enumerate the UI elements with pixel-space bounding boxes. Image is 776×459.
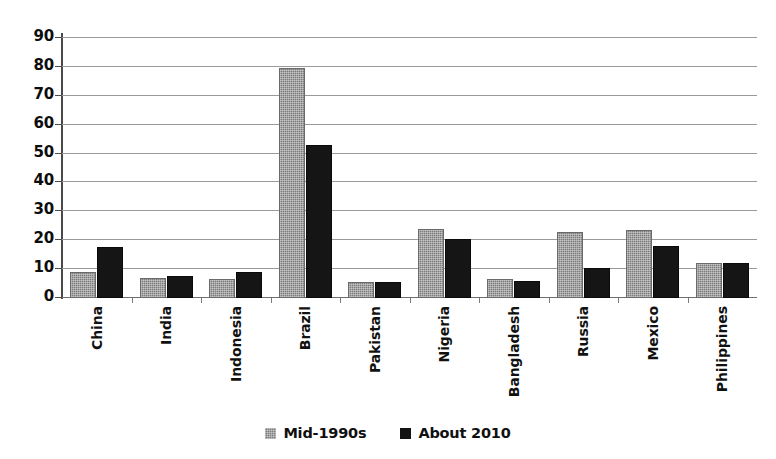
bar-pakistan-about-2010 — [375, 282, 401, 298]
x-axis-tick-mark — [479, 298, 480, 303]
bar-brazil-about-2010 — [306, 145, 332, 298]
y-axis-tick-mark — [55, 181, 62, 182]
bar-china-mid-1990s — [70, 272, 96, 298]
bar-bangladesh-about-2010 — [514, 281, 540, 298]
y-axis-tick-label: 70 — [18, 87, 54, 102]
bar-bangladesh-mid-1990s — [487, 279, 513, 298]
bars-layer — [62, 37, 757, 298]
x-axis-label-slot: Philippines — [688, 302, 758, 410]
x-axis-tick-mark — [271, 298, 272, 303]
y-axis-tick-label: 30 — [18, 202, 54, 217]
y-axis-tick-label: 0 — [18, 289, 54, 304]
y-axis-tick-mark — [55, 124, 62, 125]
x-axis-tick-label: Indonesia — [228, 306, 244, 382]
bar-philippines-mid-1990s — [696, 263, 722, 298]
x-axis-tick-mark — [201, 298, 202, 303]
bar-group — [410, 37, 480, 298]
y-axis-tick-mark — [55, 268, 62, 269]
x-axis-tick-mark — [618, 298, 619, 303]
bar-group — [340, 37, 410, 298]
x-axis-tick-label: Nigeria — [436, 306, 452, 362]
bar-pakistan-mid-1990s — [348, 282, 374, 298]
x-axis-tick-mark — [132, 298, 133, 303]
y-axis-tick-mark — [55, 297, 62, 298]
bar-india-about-2010 — [167, 276, 193, 298]
x-axis-tick-label: India — [158, 306, 174, 345]
bar-brazil-mid-1990s — [279, 68, 305, 298]
legend-label: Mid-1990s — [283, 425, 366, 441]
bar-mexico-about-2010 — [653, 246, 679, 298]
x-axis-label-slot: China — [62, 302, 132, 410]
y-axis-tick-mark — [55, 37, 62, 38]
bar-group — [688, 37, 758, 298]
x-axis-label-slot: Brazil — [271, 302, 341, 410]
bar-nigeria-about-2010 — [445, 239, 471, 298]
bar-group — [549, 37, 619, 298]
y-axis-tick-label: 10 — [18, 260, 54, 275]
x-axis-tick-labels: ChinaIndiaIndonesiaBrazilPakistanNigeria… — [62, 302, 757, 410]
bar-india-mid-1990s — [140, 278, 166, 298]
bar-group — [271, 37, 341, 298]
chart-legend: Mid-1990sAbout 2010 — [0, 425, 776, 441]
x-axis-tick-label: Philippines — [714, 306, 730, 392]
bar-group — [62, 37, 132, 298]
y-axis-tick-label: 20 — [18, 231, 54, 246]
bar-philippines-about-2010 — [723, 263, 749, 298]
x-axis-label-slot: India — [132, 302, 202, 410]
x-axis-tick-label: Pakistan — [367, 306, 383, 373]
legend-item[interactable]: About 2010 — [400, 425, 510, 441]
x-axis-label-slot: Mexico — [618, 302, 688, 410]
y-axis-tick-label: 90 — [18, 29, 54, 44]
bar-mexico-mid-1990s — [626, 230, 652, 298]
x-axis-label-slot: Pakistan — [340, 302, 410, 410]
x-axis-tick-mark — [549, 298, 550, 303]
x-axis-tick-label: Mexico — [645, 306, 661, 361]
x-axis-tick-mark — [688, 298, 689, 303]
legend-item[interactable]: Mid-1990s — [265, 425, 366, 441]
x-axis-tick-mark — [410, 298, 411, 303]
x-axis-label-slot: Russia — [549, 302, 619, 410]
bar-group — [479, 37, 549, 298]
x-axis-tick-label: Bangladesh — [506, 306, 522, 397]
bar-russia-mid-1990s — [557, 232, 583, 298]
bar-group — [132, 37, 202, 298]
bar-indonesia-about-2010 — [236, 272, 262, 298]
y-axis-tick-label: 40 — [18, 173, 54, 188]
y-axis-tick-mark — [55, 239, 62, 240]
y-axis-tick-labels: 9080706050403020100 — [14, 0, 54, 459]
y-axis-tick-label: 80 — [18, 58, 54, 73]
y-axis-tick-label: 60 — [18, 116, 54, 131]
y-axis-tick-mark — [55, 210, 62, 211]
y-axis-tick-label: 50 — [18, 145, 54, 160]
x-axis-tick-mark — [340, 298, 341, 303]
bar-china-about-2010 — [97, 247, 123, 298]
bar-russia-about-2010 — [584, 268, 610, 298]
y-axis-tick-mark — [55, 153, 62, 154]
bar-group — [201, 37, 271, 298]
x-axis-tick-label: Brazil — [297, 306, 313, 350]
y-axis-tick-mark — [55, 95, 62, 96]
bar-indonesia-mid-1990s — [209, 279, 235, 298]
y-axis-tick-mark — [55, 66, 62, 67]
x-axis-tick-label: China — [89, 306, 105, 350]
x-axis-label-slot: Nigeria — [410, 302, 480, 410]
legend-swatch-icon — [400, 428, 411, 439]
bar-chart: 9080706050403020100 ChinaIndiaIndonesiaB… — [0, 0, 776, 459]
legend-label: About 2010 — [418, 425, 510, 441]
legend-swatch-icon — [265, 428, 276, 439]
bar-group — [618, 37, 688, 298]
bar-nigeria-mid-1990s — [418, 229, 444, 298]
x-axis-label-slot: Bangladesh — [479, 302, 549, 410]
x-axis-tick-label: Russia — [575, 306, 591, 357]
x-axis-label-slot: Indonesia — [201, 302, 271, 410]
